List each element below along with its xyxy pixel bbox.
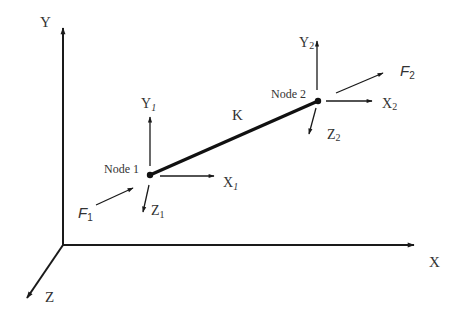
spring-element: K — [150, 101, 318, 175]
node-2-z-axis — [309, 108, 316, 134]
node-1-dot — [147, 172, 153, 178]
node-1-label: Node 1 — [104, 162, 139, 176]
global-x-label: X — [429, 254, 440, 270]
spring-element-diagram: Y X Z K Node 1 Y1 X1 Z1 F1 Node 2 — [0, 0, 460, 317]
node-2-force-label: F2 — [400, 62, 415, 81]
node-1-x-label: X1 — [223, 175, 238, 192]
global-y-label: Y — [40, 14, 51, 30]
node-2-label: Node 2 — [271, 87, 306, 101]
spring-label: K — [232, 107, 243, 123]
node-1: Node 1 Y1 X1 Z1 F1 — [78, 96, 238, 223]
node-2: Node 2 Y2 X2 Z2 F2 — [271, 35, 415, 143]
node-1-z-axis — [143, 185, 149, 212]
node-1-force-arrow — [96, 188, 133, 205]
node-1-y-label: Y1 — [141, 96, 156, 113]
node-2-z-label: Z2 — [327, 127, 341, 143]
node-2-dot — [315, 98, 321, 104]
node-1-z-label: Z1 — [151, 203, 165, 220]
node-2-force-arrow — [336, 73, 383, 93]
node-2-x-label: X2 — [382, 96, 397, 112]
node-1-force-label: F1 — [78, 204, 93, 223]
global-axes: Y X Z — [27, 14, 440, 305]
global-z-label: Z — [45, 289, 54, 305]
node-2-y-label: Y2 — [299, 35, 314, 51]
